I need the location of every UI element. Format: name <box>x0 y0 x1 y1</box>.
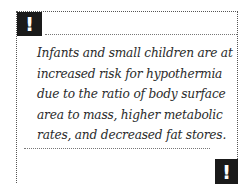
bottom-divider <box>24 148 210 149</box>
callout-text: Infants and small children are at increa… <box>37 43 237 146</box>
top-divider <box>45 34 237 35</box>
exclamation-icon: ! <box>17 12 42 36</box>
exclamation-icon: ! <box>215 159 238 184</box>
